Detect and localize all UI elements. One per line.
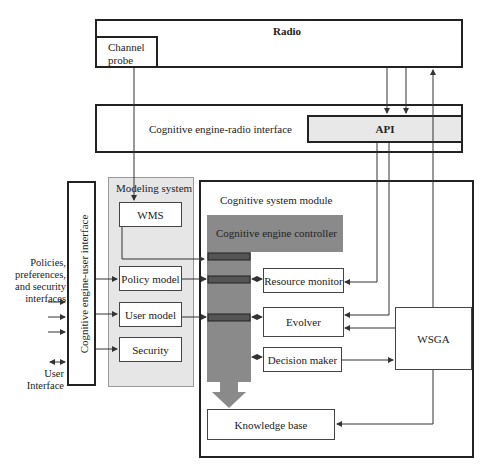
knowledge-base-box: Knowledge base [207, 409, 335, 440]
decision-maker-box: Decision maker [263, 347, 342, 372]
wsga-label: WSGA [417, 333, 449, 345]
decision-maker-label: Decision maker [268, 354, 337, 366]
wsga-box: WSGA [395, 307, 472, 370]
connectors [0, 0, 498, 466]
knowledge-base-label: Knowledge base [234, 419, 307, 431]
evolver-box: Evolver [263, 307, 344, 337]
resource-monitor-box: Resource monitor [263, 268, 344, 293]
evolver-label: Evolver [286, 316, 321, 328]
resource-monitor-label: Resource monitor [264, 275, 343, 287]
